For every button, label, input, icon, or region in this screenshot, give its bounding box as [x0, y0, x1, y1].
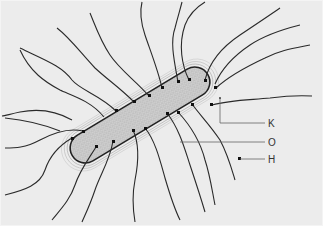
cell-body	[65, 61, 216, 168]
label-K: K	[268, 118, 275, 129]
label-O: O	[268, 137, 276, 148]
label-H: H	[268, 154, 275, 165]
leader-lines	[180, 98, 265, 159]
bacterium-diagram: K O H	[0, 0, 323, 226]
